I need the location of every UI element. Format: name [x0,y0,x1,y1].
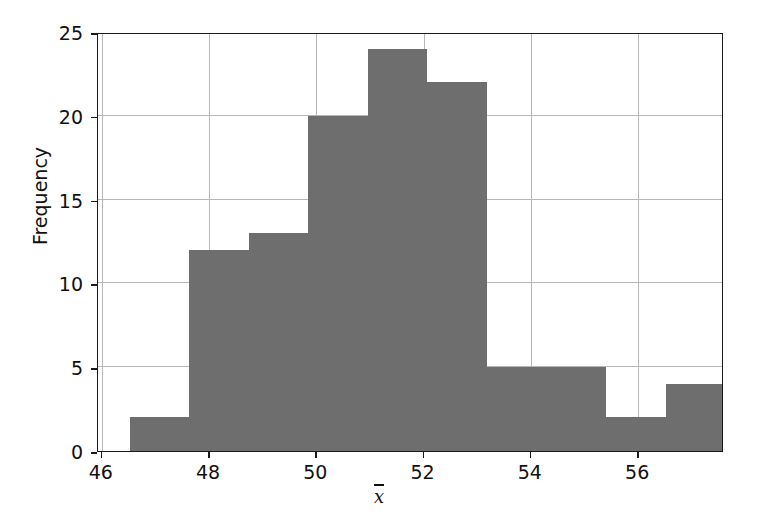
gridline-vertical [102,34,103,451]
histogram-bar [427,82,487,451]
x-tick [315,452,317,458]
plot-area [97,33,723,452]
y-tick [91,117,97,119]
histogram-bar [606,417,666,451]
histogram-bar [130,417,190,451]
y-tick-label: 0 [23,442,83,462]
y-tick-label: 5 [23,358,83,378]
histogram-bar [308,116,368,451]
x-tick-label: 50 [285,460,345,484]
x-tick [208,452,210,458]
y-tick [91,33,97,35]
x-axis-label: x [0,486,758,507]
histogram-figure: 464850525456 0510152025 x Frequency [0,0,758,525]
x-tick [637,452,639,458]
y-axis-label: Frequency [29,46,51,346]
x-tick-label: 52 [393,460,453,484]
x-tick [423,452,425,458]
y-tick [91,368,97,370]
y-tick-label: 25 [23,23,83,43]
gridline-vertical [638,34,639,451]
histogram-bar [487,367,547,451]
x-tick-label: 54 [500,460,560,484]
y-tick [91,284,97,286]
x-tick [101,452,103,458]
histogram-bar [666,384,723,451]
x-tick-label: 48 [178,460,238,484]
histogram-bar [368,49,428,451]
histogram-bar [546,367,606,451]
x-tick [530,452,532,458]
y-tick [91,452,97,454]
histogram-bar [189,250,249,451]
x-tick-label: 46 [71,460,131,484]
histogram-bar [249,233,309,451]
y-tick [91,201,97,203]
x-bar-symbol: x [374,486,384,507]
x-tick-label: 56 [607,460,667,484]
